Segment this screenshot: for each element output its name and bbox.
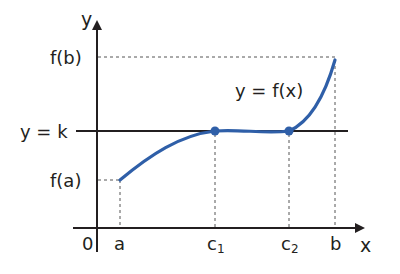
y-axis-label: y bbox=[81, 8, 92, 30]
c2-label: c2 bbox=[281, 233, 299, 256]
a-label: a bbox=[114, 233, 125, 254]
c1-label: c1 bbox=[207, 233, 225, 256]
b-label: b bbox=[330, 233, 341, 254]
fb-label: f(b) bbox=[50, 47, 82, 68]
point-c2 bbox=[285, 127, 294, 136]
curve-label: y = f(x) bbox=[235, 80, 303, 101]
point-c1 bbox=[211, 127, 220, 136]
diagram-canvas: y x 0 f(b) y = k f(a) a c1 c2 b y = f(x) bbox=[0, 0, 400, 274]
k-label: y = k bbox=[20, 121, 68, 142]
x-axis-label: x bbox=[360, 234, 371, 256]
origin-label: 0 bbox=[82, 233, 93, 254]
fa-label: f(a) bbox=[50, 170, 81, 191]
function-curve bbox=[120, 60, 335, 180]
